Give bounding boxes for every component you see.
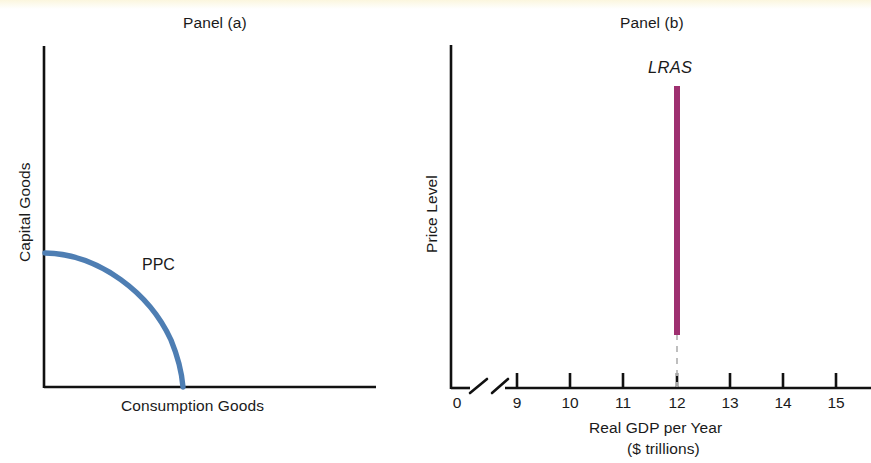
axis-break-slash-left	[470, 379, 487, 393]
x-tick-label-10: 10	[561, 394, 578, 412]
panel-a-y-axis-label: Capital Goods	[16, 162, 34, 262]
panel-a-x-axis-label: Consumption Goods	[121, 397, 264, 415]
panel-a-plot	[44, 46, 376, 388]
panel-b-x-axis-label-line1: Real GDP per Year	[589, 419, 722, 437]
panel-b-x-axis-label-line2: ($ trillions)	[627, 440, 700, 458]
axis-break-slash-right	[492, 379, 508, 393]
lras-label: LRAS	[648, 58, 692, 77]
x-tick-label-12: 12	[668, 394, 685, 412]
x-tick-label-14: 14	[774, 394, 791, 412]
economics-figure: Panel (a) Panel (b)	[0, 0, 871, 463]
panel-b-plot	[451, 45, 871, 393]
x-tick-label-15: 15	[827, 394, 844, 412]
x-tick-label-9: 9	[513, 394, 522, 412]
x-tick-label-13: 13	[721, 394, 738, 412]
ppc-label: PPC	[142, 256, 175, 274]
x-tick-label-11: 11	[615, 394, 631, 412]
x-tick-label-origin: 0	[453, 394, 462, 412]
panel-b-y-axis-label: Price Level	[423, 175, 441, 253]
